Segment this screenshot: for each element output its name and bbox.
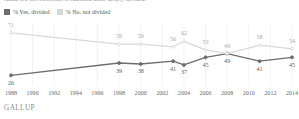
x-axis-tick-label: 2002 <box>156 90 168 96</box>
x-axis-tick-label: 2006 <box>199 90 211 96</box>
data-point <box>118 43 121 46</box>
legend-label: % No, not divided <box>66 9 111 15</box>
legend-item-no-not-divided: % No, not divided <box>57 9 111 15</box>
data-point <box>183 40 186 43</box>
legend-swatch-icon <box>57 9 63 15</box>
legend-label: % Yes, divided <box>13 9 50 15</box>
data-label: 39 <box>116 68 122 74</box>
x-axis-tick-label: 1990 <box>27 90 39 96</box>
x-axis-tick-label: 2000 <box>135 90 147 96</box>
x-axis-tick-label: 1998 <box>113 90 125 96</box>
data-label: 56 <box>170 36 176 42</box>
chart-title: Amid red-hot elections, is America more … <box>4 0 147 2</box>
data-label: 59 <box>138 33 144 39</box>
data-point <box>139 62 142 65</box>
data-point <box>172 60 175 63</box>
data-point <box>10 31 13 34</box>
x-axis-tick-label: 2010 <box>243 90 255 96</box>
data-point <box>258 44 261 47</box>
x-axis-tick-label: 2008 <box>221 90 233 96</box>
data-label: 54 <box>289 38 295 44</box>
data-point <box>291 56 294 59</box>
x-axis-tick-label: 2004 <box>178 90 190 96</box>
chart-card: Amid red-hot elections, is America more … <box>0 0 299 119</box>
x-axis-tick-label: 1992 <box>48 90 60 96</box>
gallup-brand: GALLUP <box>4 104 35 112</box>
data-label: 71 <box>8 22 14 28</box>
data-point <box>204 49 207 52</box>
x-axis-tick-label: 1996 <box>91 90 103 96</box>
x-axis-tick-label: 1994 <box>70 90 82 96</box>
data-label: 26 <box>8 80 14 86</box>
chart-plot-area: 263938413745494145715959566253495854 <box>0 24 299 86</box>
data-label: 58 <box>257 34 263 40</box>
line-chart-svg <box>0 24 299 86</box>
data-label: 45 <box>202 62 208 68</box>
data-label: 41 <box>257 66 263 72</box>
data-label: 59 <box>116 33 122 39</box>
x-axis: 1988199019921994199619982000200220042006… <box>0 88 299 100</box>
x-axis-tick-label: 1988 <box>5 90 17 96</box>
data-point <box>10 74 13 77</box>
chart-legend: % Yes, divided % No, not divided <box>4 9 110 15</box>
data-label: 38 <box>138 68 144 74</box>
x-axis-tick-label: 2012 <box>264 90 276 96</box>
data-point <box>118 62 121 65</box>
data-label: 45 <box>289 62 295 68</box>
data-point <box>204 56 207 59</box>
data-point <box>172 46 175 49</box>
data-label: 49 <box>224 58 230 64</box>
legend-item-yes-divided: % Yes, divided <box>4 9 50 15</box>
data-point <box>291 48 294 51</box>
series-line-no-not-divided <box>11 33 292 54</box>
data-point <box>182 63 185 66</box>
data-label: 53 <box>202 39 208 45</box>
series-line-yes-divided <box>11 54 292 76</box>
x-axis-tick-label: 2014 <box>286 90 298 96</box>
data-label: 62 <box>181 30 187 36</box>
data-label: 41 <box>170 66 176 72</box>
data-point <box>258 60 261 63</box>
data-label: 49 <box>224 43 230 49</box>
data-label: 37 <box>181 69 187 75</box>
legend-swatch-icon <box>4 9 10 15</box>
data-point <box>226 52 229 55</box>
data-point <box>139 43 142 46</box>
